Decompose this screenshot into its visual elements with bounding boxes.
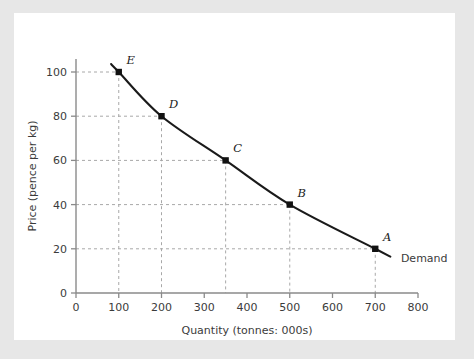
demand-curve-label: Demand — [401, 252, 448, 265]
data-point-label: D — [168, 97, 178, 111]
x-tick-label: 700 — [365, 301, 386, 314]
data-point-label: C — [233, 141, 242, 155]
data-point-label: E — [126, 53, 136, 67]
y-tick-label: 60 — [53, 154, 67, 167]
y-axis-ticks: 020406080100 — [46, 66, 76, 300]
data-point-labels: ABCDE — [126, 53, 392, 244]
y-tick-label: 40 — [53, 199, 67, 212]
gridline-group — [76, 72, 375, 293]
y-axis-title: Price (pence per kg) — [26, 120, 39, 231]
y-tick-label: 20 — [53, 243, 67, 256]
data-point-marker — [158, 113, 164, 119]
y-tick-label: 0 — [60, 287, 67, 300]
demand-curve-line — [111, 64, 390, 257]
data-point-label: B — [297, 186, 306, 200]
data-point-marker — [222, 157, 228, 163]
y-tick-label: 100 — [46, 66, 67, 79]
x-tick-label: 300 — [194, 301, 215, 314]
figure-root: 0100200300400500600700800 020406080100 A… — [0, 0, 474, 359]
x-tick-label: 100 — [108, 301, 129, 314]
x-tick-label: 500 — [279, 301, 300, 314]
x-axis-ticks: 0100200300400500600700800 — [73, 293, 429, 314]
y-tick-label: 80 — [53, 110, 67, 123]
x-tick-label: 600 — [322, 301, 343, 314]
data-point-marker — [116, 69, 122, 75]
x-tick-label: 400 — [237, 301, 258, 314]
data-point-label: A — [382, 230, 391, 244]
x-tick-label: 800 — [408, 301, 429, 314]
data-point-marker — [372, 246, 378, 252]
chart-card: 0100200300400500600700800 020406080100 A… — [14, 13, 455, 340]
x-tick-label: 0 — [73, 301, 80, 314]
x-axis-title: Quantity (tonnes: 000s) — [181, 324, 312, 337]
demand-curve-chart: 0100200300400500600700800 020406080100 A… — [14, 13, 455, 340]
data-point-marker — [287, 201, 293, 207]
x-tick-label: 200 — [151, 301, 172, 314]
